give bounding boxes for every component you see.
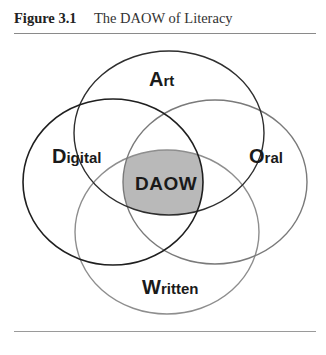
oral-label: Oral [249,146,283,166]
written-label: Written [142,277,198,297]
art-label: Art [149,69,174,89]
daow-label: DAOW [135,174,197,193]
digital-label: Digital [52,146,101,166]
bottom-rule [14,331,316,332]
